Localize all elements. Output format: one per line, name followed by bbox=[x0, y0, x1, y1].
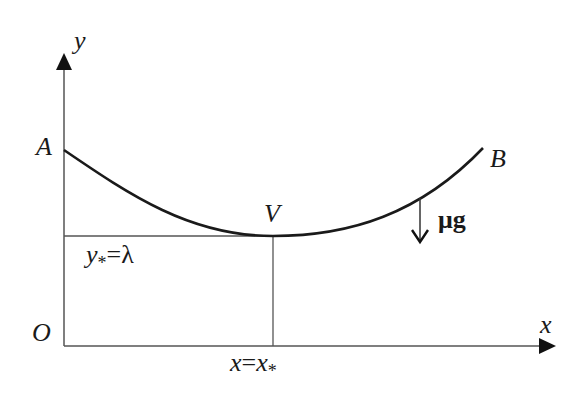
point-b-label: B bbox=[490, 146, 506, 172]
y-axis-label: y bbox=[74, 28, 86, 54]
y-star-subscript: * bbox=[98, 253, 107, 273]
x-axis-label: x bbox=[540, 312, 552, 338]
x-star-subscript: * bbox=[268, 361, 277, 381]
catenary-diagram bbox=[0, 0, 587, 397]
y-star-annotation: y*=λ bbox=[86, 242, 134, 272]
x-star-annotation: x=x* bbox=[230, 350, 277, 380]
x-axis-arrowhead-icon bbox=[539, 338, 556, 354]
x-star-lhs: x bbox=[230, 348, 242, 377]
y-axis-arrowhead-icon bbox=[56, 53, 72, 70]
force-label: μg bbox=[438, 207, 466, 233]
point-a-label: A bbox=[36, 134, 52, 160]
x-star-rhs: x bbox=[256, 348, 268, 377]
point-v-label: V bbox=[264, 201, 280, 227]
x-star-equals: = bbox=[242, 348, 257, 377]
y-star-value: λ bbox=[121, 240, 134, 269]
y-star-equals: = bbox=[107, 240, 122, 269]
y-star-var: y bbox=[86, 240, 98, 269]
origin-label: O bbox=[32, 320, 51, 346]
